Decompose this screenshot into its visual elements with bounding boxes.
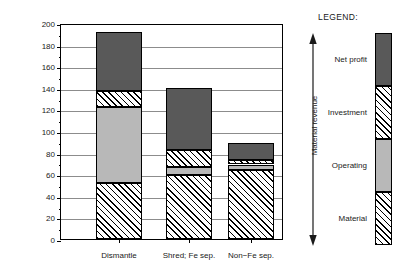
y-tick-label: 40 bbox=[29, 194, 55, 202]
y-tick-label: 160 bbox=[29, 64, 55, 72]
bar-segment-net-profit bbox=[228, 143, 274, 160]
legend-swatch-operating bbox=[375, 139, 392, 192]
bar-segment-material bbox=[96, 183, 142, 239]
bar-segment-material bbox=[228, 170, 274, 239]
y-tick-major bbox=[57, 198, 61, 199]
x-tick bbox=[189, 239, 190, 243]
y-tick-label: 180 bbox=[29, 43, 55, 51]
legend-label-operating: Operating bbox=[332, 161, 367, 170]
legend-swatch-net-profit bbox=[375, 33, 392, 86]
y-tick-major bbox=[57, 133, 61, 134]
bar-shred-fe-sep bbox=[166, 88, 212, 239]
y-tick-major bbox=[57, 68, 61, 69]
material-revenue-arrow: Material revenue bbox=[306, 33, 320, 246]
bar-dismantle bbox=[96, 32, 142, 239]
legend-swatch-material bbox=[375, 192, 392, 245]
y-tick-major bbox=[57, 47, 61, 48]
legend-label-investment: Investment bbox=[328, 108, 367, 117]
x-tick-label: Non−Fe sep. bbox=[228, 251, 274, 260]
y-tick-major bbox=[57, 155, 61, 156]
y-tick-label: 20 bbox=[29, 215, 55, 223]
y-tick-label: 140 bbox=[29, 86, 55, 94]
gridline bbox=[61, 68, 282, 69]
bar-segment-net-profit bbox=[166, 88, 212, 151]
bar-segment-net-profit bbox=[96, 32, 142, 91]
y-tick-label: 0 bbox=[29, 237, 55, 245]
legend-label-net-profit: Net profit bbox=[335, 55, 367, 64]
bar-segment-investment bbox=[166, 150, 212, 166]
y-tick-minor bbox=[59, 122, 62, 123]
y-tick-minor bbox=[59, 187, 62, 188]
bar-segment-operating bbox=[96, 107, 142, 183]
y-tick-minor bbox=[59, 101, 62, 102]
x-tick bbox=[119, 239, 120, 243]
bar-segment-investment bbox=[96, 91, 142, 107]
bar-non-fe-sep bbox=[228, 143, 274, 239]
y-tick-major bbox=[57, 176, 61, 177]
y-tick-minor bbox=[59, 165, 62, 166]
y-tick-minor bbox=[59, 36, 62, 37]
bar-segment-investment bbox=[228, 160, 274, 164]
y-tick-minor bbox=[59, 230, 62, 231]
bar-segment-operating bbox=[228, 165, 274, 170]
y-tick-minor bbox=[59, 79, 62, 80]
y-tick-minor bbox=[59, 144, 62, 145]
y-tick-major bbox=[57, 90, 61, 91]
bar-segment-material bbox=[166, 175, 212, 239]
x-tick-label: Shred; Fe sep. bbox=[163, 251, 215, 260]
y-tick-major bbox=[57, 219, 61, 220]
bar-segment-operating bbox=[166, 167, 212, 176]
material-revenue-label: Material revenue bbox=[310, 81, 319, 171]
y-tick-major bbox=[57, 111, 61, 112]
gridline bbox=[61, 47, 282, 48]
y-tick-minor bbox=[59, 209, 62, 210]
y-tick-major bbox=[57, 25, 61, 26]
legend-key-bar: Net profitInvestmentOperatingMaterial bbox=[375, 33, 392, 245]
y-tick-label: 60 bbox=[29, 172, 55, 180]
x-tick-label: Dismantle bbox=[101, 251, 137, 260]
y-tick-label: 100 bbox=[29, 129, 55, 137]
legend-panel: LEGEND: Material revenue Net profitInves… bbox=[290, 0, 416, 274]
x-tick bbox=[251, 239, 252, 243]
chart-panel: Costs per vehicle, $ 0204060801001201401… bbox=[0, 0, 290, 274]
legend-swatch-investment bbox=[375, 86, 392, 139]
plot-area: 020406080100120140160180200 DismantleShr… bbox=[60, 24, 283, 240]
legend-title: LEGEND: bbox=[318, 12, 358, 22]
y-tick-minor bbox=[59, 57, 62, 58]
y-tick-label: 80 bbox=[29, 151, 55, 159]
y-tick-label: 200 bbox=[29, 21, 55, 29]
legend-label-material: Material bbox=[339, 214, 367, 223]
y-tick-major bbox=[57, 241, 61, 242]
figure-stacked-bar-chart: Costs per vehicle, $ 0204060801001201401… bbox=[0, 0, 416, 274]
y-tick-label: 120 bbox=[29, 107, 55, 115]
